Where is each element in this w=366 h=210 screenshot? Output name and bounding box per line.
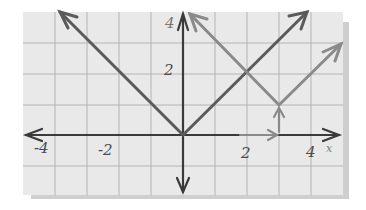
x-tick-label-neg4: -4 xyxy=(34,141,49,156)
x-tick-label-neg2: -2 xyxy=(98,143,113,158)
x-axis-label: x xyxy=(326,143,332,154)
coordinate-graph xyxy=(0,0,366,210)
x-tick-label-4: 4 xyxy=(306,145,316,160)
y-tick-label-2: 2 xyxy=(164,63,174,78)
x-tick-label-2: 2 xyxy=(241,146,251,161)
y-tick-label-4: 4 xyxy=(165,16,175,31)
